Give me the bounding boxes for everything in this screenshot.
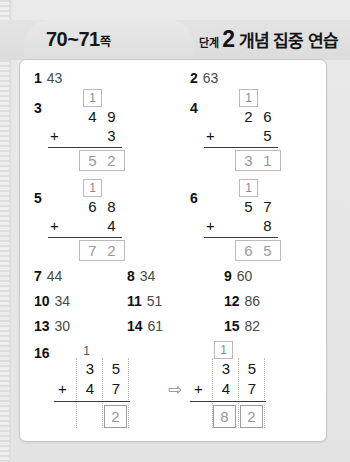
binding-shadow — [9, 0, 13, 462]
addend-2-tens — [239, 217, 258, 234]
problem-number: 11 — [127, 293, 142, 309]
page-header: 70~71쪽 단계 2 개념 집중 연습 — [0, 20, 350, 60]
problem-answer: 61 — [148, 318, 164, 334]
stage-heading: 단계 2 개념 집중 연습 — [199, 27, 338, 52]
sum-rule — [204, 147, 278, 148]
addend-1-tens: 3 — [213, 360, 239, 377]
addend-1: 2 6 — [220, 108, 277, 125]
sum-tens: 6 — [239, 242, 258, 259]
problem-13: 13 30 — [34, 318, 70, 334]
problem-5: 5 1 6 8 + 4 7 2 — [34, 178, 154, 256]
problem-number: 12 — [224, 293, 240, 309]
addend-1: 3 5 — [77, 360, 129, 377]
problem-7: 7 44 — [34, 268, 62, 284]
problem-number: 16 — [34, 345, 50, 361]
arrow-right-icon: ⇨ — [168, 381, 182, 398]
problem-answer: 44 — [47, 268, 63, 284]
addend-2-ones: 3 — [102, 127, 121, 144]
sum-ones-box: 2 — [104, 405, 127, 428]
problem-number: 6 — [190, 190, 198, 206]
addend-2-ones: 4 — [102, 217, 121, 234]
plus-operator: + — [50, 217, 59, 234]
problem-8: 8 34 — [127, 268, 155, 284]
addend-1: 5 7 — [220, 198, 277, 215]
problem-answer: 30 — [55, 318, 71, 334]
problem-answer: 60 — [237, 268, 253, 284]
sum-tens: 3 — [239, 152, 258, 169]
addend-2: 5 — [220, 127, 277, 144]
problem-number: 14 — [127, 318, 143, 334]
addend-1-ones: 5 — [239, 360, 265, 377]
problem-number: 4 — [190, 100, 198, 116]
stage-label: 단계 — [199, 34, 218, 50]
problem-number: 15 — [224, 318, 240, 334]
carry-box: 1 — [239, 179, 258, 197]
problem-answer: 86 — [245, 293, 261, 309]
addend-2: 4 7 — [213, 380, 265, 397]
addend-1-tens: 3 — [77, 360, 103, 377]
addend-1-ones: 9 — [102, 108, 121, 125]
page-range-label: 70~71쪽 — [46, 28, 110, 51]
stage-number: 2 — [222, 28, 235, 51]
carry-box: 1 — [239, 89, 258, 107]
problem-answer: 43 — [47, 70, 63, 86]
addend-1-ones: 5 — [103, 360, 129, 377]
problem-answer: 34 — [55, 293, 71, 309]
problem-number: 5 — [34, 190, 42, 206]
problem-number: 9 — [224, 268, 232, 284]
addend-1: 3 5 — [213, 360, 265, 377]
addend-2-tens: 4 — [213, 380, 239, 397]
sum-ones: 5 — [258, 242, 277, 259]
problem-1: 1 43 — [34, 70, 62, 86]
exercise-card: 1 43 2 63 3 1 4 9 + 3 5 2 — [19, 59, 327, 442]
problem-11: 11 51 — [127, 293, 162, 309]
addend-2-tens — [83, 217, 102, 234]
addend-1-tens: 5 — [239, 198, 258, 215]
problem-14: 14 61 — [127, 318, 163, 334]
problem-number: 8 — [127, 268, 135, 284]
addend-1-ones: 8 — [102, 198, 121, 215]
carry-box: 1 — [214, 341, 233, 359]
problem-number: 13 — [34, 318, 50, 334]
sum-tens-box: 8 — [213, 405, 236, 428]
problem-answer: 82 — [245, 318, 261, 334]
sum-ones: 2 — [102, 242, 121, 259]
problem-15: 15 82 — [224, 318, 260, 334]
problem-number: 3 — [34, 100, 42, 116]
problem-4: 4 1 2 6 + 5 3 1 — [190, 88, 310, 166]
sum-ones: 1 — [258, 152, 277, 169]
problem-16-left-stage: 1 3 5 + 4 7 2 — [68, 343, 158, 438]
sum-tens: 5 — [83, 152, 102, 169]
addend-2-ones: 5 — [258, 127, 277, 144]
addend-2: 4 — [64, 217, 121, 234]
plus-operator: + — [50, 127, 59, 144]
sum-rule — [190, 401, 266, 402]
addend-1-tens: 2 — [239, 108, 258, 125]
problem-answer: 51 — [147, 293, 163, 309]
addend-2-ones: 8 — [258, 217, 277, 234]
addend-1-tens: 4 — [83, 108, 102, 125]
addend-2-ones: 7 — [239, 380, 265, 397]
problem-answer: 34 — [140, 268, 156, 284]
plus-operator: + — [194, 380, 203, 397]
carry-mark: 1 — [78, 343, 95, 359]
addend-1: 4 9 — [64, 108, 121, 125]
problem-number: 10 — [34, 293, 50, 309]
addend-2-tens — [239, 127, 258, 144]
addend-1-ones: 7 — [258, 198, 277, 215]
addend-1-tens: 6 — [83, 198, 102, 215]
sum-rule — [54, 401, 130, 402]
page-range-value: 70~71 — [46, 28, 100, 50]
problem-16-right-stage: 1 3 5 + 4 7 8 2 — [204, 343, 304, 438]
sum-ones-box: 2 — [240, 405, 263, 428]
plus-operator: + — [206, 217, 215, 234]
addend-1-ones: 6 — [258, 108, 277, 125]
workbook-page: 70~71쪽 단계 2 개념 집중 연습 1 43 2 63 3 1 4 9 + — [0, 0, 350, 462]
sum-answer-box: 3 1 — [235, 150, 281, 171]
sum-answer-box: 7 2 — [79, 240, 125, 261]
sum-answer-box: 5 2 — [79, 150, 125, 171]
addend-2-tens — [83, 127, 102, 144]
problem-6: 6 1 5 7 + 8 6 5 — [190, 178, 310, 256]
carry-box: 1 — [83, 89, 102, 107]
problem-12: 12 86 — [224, 293, 260, 309]
